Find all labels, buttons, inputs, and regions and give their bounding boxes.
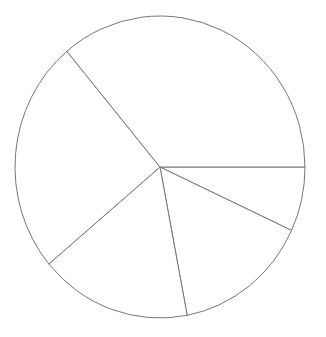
pie-chart [0, 0, 326, 337]
